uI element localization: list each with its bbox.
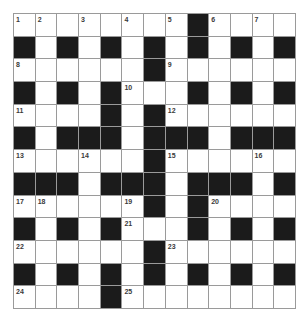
letter-cell[interactable]: [209, 150, 230, 172]
letter-cell[interactable]: [253, 286, 274, 308]
letter-cell[interactable]: 4: [122, 14, 143, 36]
letter-cell[interactable]: [166, 286, 187, 308]
letter-cell[interactable]: [231, 105, 252, 127]
letter-cell[interactable]: [209, 241, 230, 263]
letter-cell[interactable]: [79, 241, 100, 263]
letter-cell[interactable]: [36, 218, 57, 240]
letter-cell[interactable]: [57, 59, 78, 81]
letter-cell[interactable]: [101, 241, 122, 263]
letter-cell[interactable]: [253, 37, 274, 59]
letter-cell[interactable]: [209, 127, 230, 149]
letter-cell[interactable]: [253, 196, 274, 218]
letter-cell[interactable]: 5: [166, 14, 187, 36]
letter-cell[interactable]: [253, 241, 274, 263]
letter-cell[interactable]: [231, 286, 252, 308]
letter-cell[interactable]: [209, 82, 230, 104]
letter-cell[interactable]: [144, 14, 165, 36]
letter-cell[interactable]: [274, 241, 295, 263]
letter-cell[interactable]: 13: [14, 150, 35, 172]
letter-cell[interactable]: [253, 82, 274, 104]
letter-cell[interactable]: 10: [122, 82, 143, 104]
letter-cell[interactable]: [101, 59, 122, 81]
letter-cell[interactable]: 22: [14, 241, 35, 263]
letter-cell[interactable]: [231, 150, 252, 172]
letter-cell[interactable]: [274, 14, 295, 36]
letter-cell[interactable]: 9: [166, 59, 187, 81]
letter-cell[interactable]: [209, 37, 230, 59]
letter-cell[interactable]: [57, 105, 78, 127]
letter-cell[interactable]: [79, 37, 100, 59]
letter-cell[interactable]: [101, 150, 122, 172]
letter-cell[interactable]: [36, 150, 57, 172]
letter-cell[interactable]: 17: [14, 196, 35, 218]
letter-cell[interactable]: [166, 173, 187, 195]
letter-cell[interactable]: [36, 127, 57, 149]
letter-cell[interactable]: [166, 82, 187, 104]
letter-cell[interactable]: 23: [166, 241, 187, 263]
letter-cell[interactable]: 21: [122, 218, 143, 240]
letter-cell[interactable]: 25: [122, 286, 143, 308]
letter-cell[interactable]: [36, 82, 57, 104]
letter-cell[interactable]: [79, 105, 100, 127]
letter-cell[interactable]: [166, 218, 187, 240]
letter-cell[interactable]: 20: [209, 196, 230, 218]
letter-cell[interactable]: [122, 59, 143, 81]
letter-cell[interactable]: 7: [253, 14, 274, 36]
letter-cell[interactable]: [274, 105, 295, 127]
letter-cell[interactable]: [253, 105, 274, 127]
letter-cell[interactable]: [166, 196, 187, 218]
letter-cell[interactable]: [231, 196, 252, 218]
letter-cell[interactable]: [122, 105, 143, 127]
letter-cell[interactable]: [57, 150, 78, 172]
letter-cell[interactable]: [122, 264, 143, 286]
letter-cell[interactable]: [253, 173, 274, 195]
letter-cell[interactable]: [79, 82, 100, 104]
letter-cell[interactable]: [188, 150, 209, 172]
letter-cell[interactable]: [79, 173, 100, 195]
letter-cell[interactable]: [209, 286, 230, 308]
letter-cell[interactable]: [253, 59, 274, 81]
letter-cell[interactable]: [122, 150, 143, 172]
letter-cell[interactable]: [57, 241, 78, 263]
letter-cell[interactable]: [144, 82, 165, 104]
letter-cell[interactable]: [79, 286, 100, 308]
letter-cell[interactable]: [36, 105, 57, 127]
letter-cell[interactable]: 6: [209, 14, 230, 36]
letter-cell[interactable]: [101, 14, 122, 36]
letter-cell[interactable]: [274, 150, 295, 172]
letter-cell[interactable]: [274, 59, 295, 81]
letter-cell[interactable]: [79, 59, 100, 81]
letter-cell[interactable]: 15: [166, 150, 187, 172]
letter-cell[interactable]: [36, 37, 57, 59]
letter-cell[interactable]: [166, 37, 187, 59]
letter-cell[interactable]: [36, 241, 57, 263]
letter-cell[interactable]: [79, 218, 100, 240]
letter-cell[interactable]: [122, 37, 143, 59]
letter-cell[interactable]: 24: [14, 286, 35, 308]
letter-cell[interactable]: [101, 196, 122, 218]
letter-cell[interactable]: [253, 264, 274, 286]
letter-cell[interactable]: [253, 218, 274, 240]
letter-cell[interactable]: 2: [36, 14, 57, 36]
letter-cell[interactable]: [274, 286, 295, 308]
letter-cell[interactable]: 8: [14, 59, 35, 81]
letter-cell[interactable]: [122, 127, 143, 149]
letter-cell[interactable]: 16: [253, 150, 274, 172]
letter-cell[interactable]: 11: [14, 105, 35, 127]
letter-cell[interactable]: [188, 286, 209, 308]
letter-cell[interactable]: [231, 59, 252, 81]
letter-cell[interactable]: [188, 105, 209, 127]
letter-cell[interactable]: [36, 286, 57, 308]
letter-cell[interactable]: [144, 218, 165, 240]
letter-cell[interactable]: [144, 286, 165, 308]
letter-cell[interactable]: [36, 264, 57, 286]
letter-cell[interactable]: 19: [122, 196, 143, 218]
letter-cell[interactable]: [209, 105, 230, 127]
letter-cell[interactable]: [79, 264, 100, 286]
letter-cell[interactable]: [188, 59, 209, 81]
letter-cell[interactable]: [57, 196, 78, 218]
letter-cell[interactable]: 12: [166, 105, 187, 127]
letter-cell[interactable]: [209, 218, 230, 240]
letter-cell[interactable]: [166, 264, 187, 286]
letter-cell[interactable]: 18: [36, 196, 57, 218]
